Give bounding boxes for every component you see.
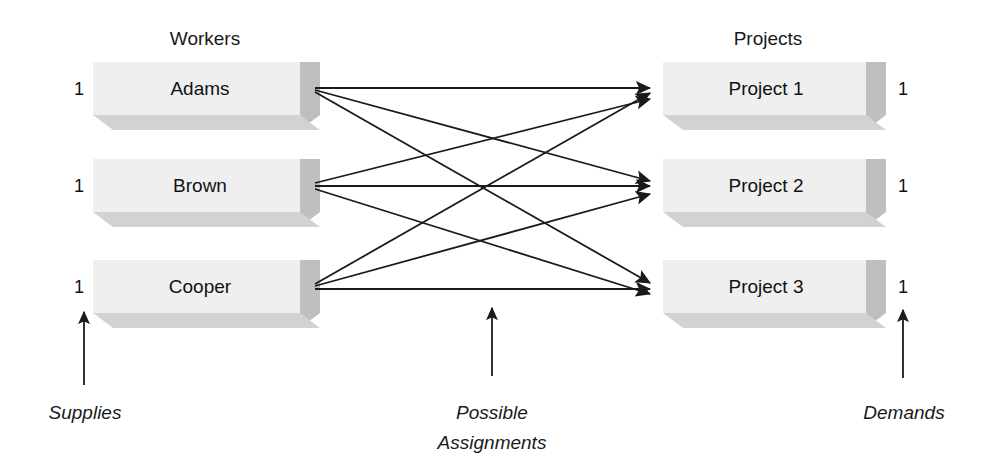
demand-value-project-3: 1 (898, 277, 908, 297)
box-3d-bottom (663, 313, 886, 328)
demand-value-project-2: 1 (898, 176, 908, 196)
project-node-1[interactable]: Project 1 (663, 62, 886, 130)
worker-node-cooper[interactable]: Cooper (93, 260, 320, 328)
workers-column-header: Workers (170, 28, 240, 49)
caption-assignments-line1: Possible (456, 402, 528, 423)
supply-value-adams: 1 (74, 79, 84, 99)
projects-column-header: Projects (734, 28, 803, 49)
worker-label-adams: Adams (170, 78, 229, 99)
box-3d-bottom (93, 212, 320, 227)
demand-value-project-1: 1 (898, 79, 908, 99)
edge-brown-project-3[interactable] (315, 189, 650, 294)
box-3d-bottom (663, 212, 886, 227)
edge-adams-project-2[interactable] (315, 90, 650, 181)
worker-label-brown: Brown (173, 175, 227, 196)
assignment-problem-diagram: Workers Projects Adams 1 Brown 1 Cooper … (0, 0, 981, 464)
project-node-2[interactable]: Project 2 (663, 159, 886, 227)
caption-assignments-line2: Assignments (437, 432, 547, 453)
box-3d-bottom (93, 313, 320, 328)
assignment-edges-group (315, 88, 650, 294)
supply-value-brown: 1 (74, 176, 84, 196)
edge-cooper-project-2[interactable] (315, 194, 650, 286)
worker-node-adams[interactable]: Adams (93, 62, 320, 130)
worker-node-brown[interactable]: Brown (93, 159, 320, 227)
edge-brown-project-1[interactable] (315, 99, 650, 183)
worker-label-cooper: Cooper (169, 276, 232, 297)
project-label-2: Project 2 (729, 175, 804, 196)
project-label-1: Project 1 (729, 78, 804, 99)
diagram-canvas: Workers Projects Adams 1 Brown 1 Cooper … (0, 0, 981, 464)
caption-demands: Demands (863, 402, 945, 423)
caption-supplies: Supplies (49, 402, 122, 423)
supply-value-cooper: 1 (74, 277, 84, 297)
project-node-3[interactable]: Project 3 (663, 260, 886, 328)
project-label-3: Project 3 (729, 276, 804, 297)
box-3d-bottom (93, 115, 320, 130)
box-3d-bottom (663, 115, 886, 130)
